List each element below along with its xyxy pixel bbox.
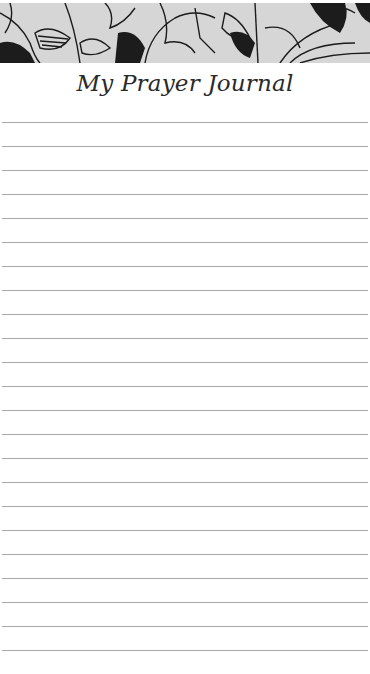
ruled-line (2, 506, 368, 530)
ruled-line (2, 146, 368, 170)
ruled-line (2, 458, 368, 482)
ruled-line (2, 170, 368, 194)
ruled-line (2, 314, 368, 338)
ruled-line (2, 194, 368, 218)
ruled-line (2, 338, 368, 362)
ruled-line (2, 626, 368, 650)
floral-banner-icon (0, 3, 370, 63)
ruled-line (2, 218, 368, 242)
ruled-line (2, 242, 368, 266)
ruled-writing-area[interactable] (2, 122, 368, 674)
ruled-line (2, 386, 368, 410)
ruled-line (2, 266, 368, 290)
ruled-line (2, 650, 368, 674)
ruled-line (2, 290, 368, 314)
floral-banner (0, 3, 370, 63)
ruled-line (2, 602, 368, 626)
ruled-line (2, 530, 368, 554)
ruled-line (2, 362, 368, 386)
page-title: My Prayer Journal (0, 70, 370, 96)
ruled-line (2, 122, 368, 146)
ruled-line (2, 554, 368, 578)
ruled-line (2, 578, 368, 602)
ruled-line (2, 482, 368, 506)
ruled-line (2, 434, 368, 458)
ruled-line (2, 410, 368, 434)
